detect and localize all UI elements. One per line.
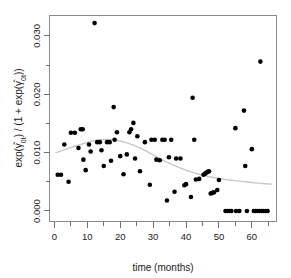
data-point: [172, 189, 177, 194]
data-point: [111, 105, 116, 110]
data-point: [76, 146, 81, 151]
data-point: [125, 152, 130, 157]
data-point: [233, 126, 238, 131]
data-point: [112, 138, 117, 143]
x-tick-label: 20: [115, 231, 126, 242]
data-point: [118, 154, 123, 159]
x-tick-label: 40: [181, 231, 192, 242]
data-point: [167, 155, 172, 160]
data-point: [207, 169, 212, 174]
data-point: [98, 140, 103, 145]
data-point: [92, 21, 97, 26]
data-point: [131, 121, 136, 126]
scatter-plot-figure: 0.0000.0100.0200.030 0102030405060 time …: [0, 0, 291, 278]
x-axis-title-group: time (months): [132, 262, 193, 273]
data-point: [143, 140, 148, 145]
y-axis-ticks: [44, 36, 50, 211]
x-axis-title: time (months): [132, 262, 193, 273]
x-tick-label: 30: [148, 231, 159, 242]
data-point: [217, 178, 222, 183]
data-point: [190, 95, 195, 100]
data-point: [148, 182, 153, 187]
data-points-group: [55, 21, 270, 214]
x-tick-label: 0: [52, 231, 57, 242]
data-point: [184, 182, 189, 187]
x-axis-ticks: [54, 222, 268, 228]
data-point: [109, 159, 114, 164]
data-point: [69, 131, 74, 136]
data-point: [169, 138, 174, 143]
data-point: [73, 131, 78, 136]
data-point: [83, 168, 88, 173]
y-axis-tick-labels: 0.0000.0100.0200.030: [32, 24, 43, 223]
x-tick-label: 60: [247, 231, 258, 242]
y-tick-label: 0.020: [32, 82, 43, 106]
data-point: [88, 149, 93, 154]
data-point: [162, 138, 167, 143]
data-point: [66, 180, 71, 185]
data-point: [62, 142, 67, 147]
data-point: [245, 209, 250, 214]
y-tick-label: 0.000: [32, 199, 43, 223]
data-point: [138, 169, 143, 174]
data-point: [115, 130, 120, 135]
plot-canvas: 0.0000.0100.0200.030 0102030405060 time …: [0, 0, 291, 278]
data-point: [197, 177, 202, 182]
data-point: [101, 164, 106, 169]
y-axis-title: exp(γ̂0t) / (1 + exp(γ̂0t)): [13, 68, 27, 167]
y-tick-label: 0.030: [32, 24, 43, 48]
data-point: [59, 173, 64, 178]
plot-frame: [50, 16, 277, 222]
data-point: [133, 156, 138, 161]
data-point: [99, 148, 104, 153]
data-point: [189, 195, 194, 200]
data-point: [152, 138, 157, 143]
data-point: [107, 140, 112, 145]
x-tick-label: 50: [214, 231, 225, 242]
x-axis-tick-labels: 0102030405060: [52, 231, 257, 242]
data-point: [250, 147, 255, 152]
y-axis-title-group: exp(γ̂0t) / (1 + exp(γ̂0t)): [13, 68, 27, 167]
data-point: [229, 209, 234, 214]
data-point: [80, 127, 85, 132]
data-point: [215, 188, 220, 193]
data-point: [258, 59, 263, 64]
y-tick-label: 0.010: [32, 141, 43, 165]
data-point: [178, 156, 183, 161]
data-point: [242, 108, 247, 113]
data-point: [81, 157, 86, 162]
data-point: [87, 142, 92, 147]
x-tick-label: 10: [82, 231, 93, 242]
data-point: [121, 172, 126, 177]
data-point: [174, 156, 179, 161]
data-point: [192, 138, 197, 143]
data-point: [237, 209, 242, 214]
data-point: [157, 158, 162, 163]
data-point: [243, 164, 248, 169]
data-point: [165, 198, 170, 203]
plot-frame-group: [50, 16, 277, 222]
data-point: [265, 209, 270, 214]
data-point: [129, 127, 134, 132]
data-point: [135, 134, 140, 139]
